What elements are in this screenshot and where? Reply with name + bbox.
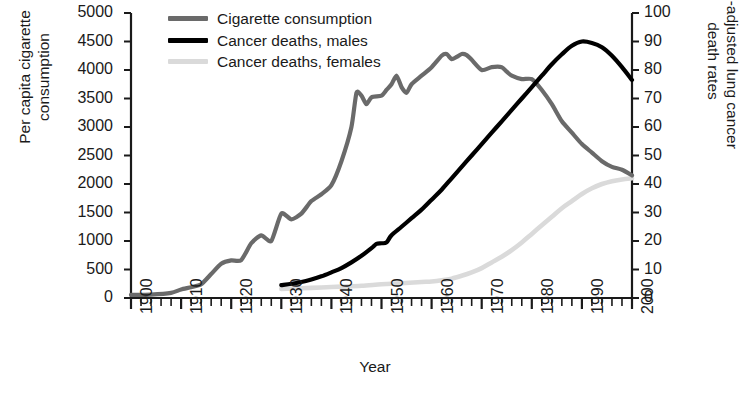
y-axis-left-tick-label: 500 [53, 260, 113, 278]
series-line [131, 54, 632, 295]
x-axis-tick-label: 1970 [489, 278, 507, 314]
y-axis-left-tick-label: 1500 [53, 203, 113, 221]
x-axis-tick-label: 1910 [188, 278, 206, 314]
y-axis-left-tick-label: 4000 [53, 60, 113, 78]
x-axis-tick-label: 1940 [338, 278, 356, 314]
y-axis-right-tick-label: 50 [644, 146, 690, 164]
x-axis-tick-label: 1920 [238, 278, 256, 314]
y-axis-right-tick-label: 60 [644, 117, 690, 135]
y-axis-left-tick-label: 3000 [53, 117, 113, 135]
x-axis-tick-label: 1900 [138, 278, 156, 314]
y-axis-left-tick-label: 1000 [53, 231, 113, 249]
series-line [281, 41, 632, 285]
y-axis-left-tick-label: 3500 [53, 89, 113, 107]
y-axis-left-tick-label: 2000 [53, 174, 113, 192]
x-axis-tick-label: 2000 [639, 278, 657, 314]
y-axis-left-tick-label: 0 [53, 288, 113, 306]
y-axis-right-tick-label: 80 [644, 60, 690, 78]
x-axis-tick-label: 1960 [439, 278, 457, 314]
y-axis-left-tick-label: 2500 [53, 146, 113, 164]
y-axis-right-tick-label: 30 [644, 203, 690, 221]
chart-figure: Per capita cigarette consumption Age-adj… [0, 0, 750, 403]
x-axis-tick-label: 1930 [288, 278, 306, 314]
x-axis-tick-label: 1980 [539, 278, 557, 314]
y-axis-right-tick-label: 40 [644, 174, 690, 192]
x-axis-tick-label: 1950 [389, 278, 407, 314]
y-axis-left-tick-label: 5000 [53, 3, 113, 21]
y-axis-right-tick-label: 70 [644, 89, 690, 107]
y-axis-right-tick-label: 100 [644, 3, 690, 21]
y-axis-right-tick-label: 90 [644, 32, 690, 50]
y-axis-right-tick-label: 10 [644, 260, 690, 278]
x-axis-tick-label: 1990 [589, 278, 607, 314]
y-axis-right-tick-label: 20 [644, 231, 690, 249]
y-axis-left-tick-label: 4500 [53, 32, 113, 50]
